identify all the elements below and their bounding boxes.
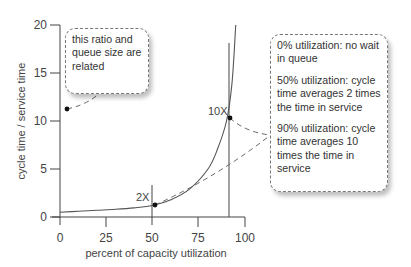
callout-0pct: 0% utilization: no wait in queue — [277, 39, 383, 66]
svg-text:100: 100 — [235, 231, 255, 245]
ratio-callout-line-1: this ratio and — [72, 33, 144, 46]
x-tick-labels: 0 25 50 75 100 — [57, 231, 256, 245]
svg-text:75: 75 — [191, 231, 205, 245]
svg-text:0: 0 — [57, 231, 64, 245]
ratio-callout-line-3: related — [72, 60, 144, 73]
ten-x-dot — [228, 116, 233, 121]
svg-text:20: 20 — [34, 18, 48, 32]
svg-text:0: 0 — [40, 210, 47, 224]
leader-2x — [155, 137, 268, 205]
svg-text:15: 15 — [34, 66, 48, 80]
ratio-callout: this ratio and queue size are related — [65, 28, 149, 94]
callout-90pct: 90% utilization: cycle time averages 10 … — [277, 122, 383, 176]
svg-text:5: 5 — [40, 162, 47, 176]
y-axis-label: cycle time / service time — [15, 63, 27, 180]
two-x-label: 2X — [136, 191, 150, 203]
callout-50pct: 50% utilization: cycle time averages 2 t… — [277, 74, 383, 114]
two-x-dot — [153, 203, 158, 208]
svg-text:10: 10 — [34, 114, 48, 128]
utilization-callout: 0% utilization: no wait in queue 50% uti… — [270, 34, 388, 192]
leader-10x — [230, 118, 270, 135]
y-tick-labels: 0 5 10 15 20 — [34, 18, 48, 224]
ten-x-label: 10X — [208, 105, 228, 117]
x-ticks — [106, 217, 245, 227]
svg-text:50: 50 — [145, 231, 159, 245]
x-axis-label: percent of capacity utilization — [85, 247, 226, 259]
y-ticks — [50, 25, 60, 217]
ratio-callout-line-2: queue size are — [72, 46, 144, 59]
ratio-point-dot — [65, 107, 70, 112]
svg-text:25: 25 — [99, 231, 113, 245]
